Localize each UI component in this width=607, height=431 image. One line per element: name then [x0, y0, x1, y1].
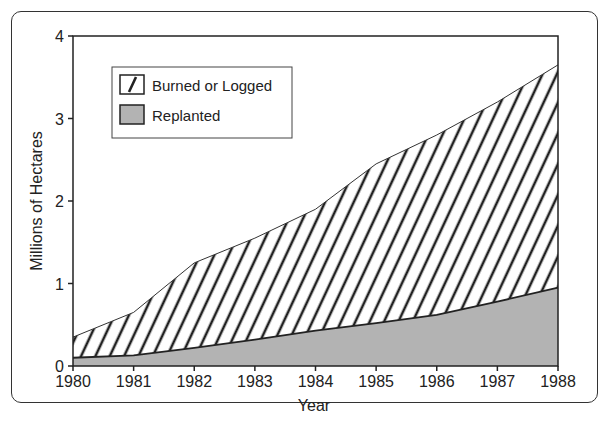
legend: Burned or Logged Replanted [112, 67, 292, 138]
x-tick-label: 1980 [55, 373, 91, 390]
gray-swatch-icon [120, 105, 144, 124]
y-tick-label: 2 [55, 193, 64, 210]
x-tick-label: 1982 [176, 373, 212, 390]
y-axis: 01234 [55, 28, 73, 375]
x-tick-label: 1983 [237, 373, 273, 390]
x-tick-label: 1988 [540, 373, 576, 390]
x-tick-label: 1984 [298, 373, 334, 390]
y-tick-label: 1 [55, 276, 64, 293]
legend-label-replanted: Replanted [152, 107, 220, 124]
legend-label-burned: Burned or Logged [152, 77, 272, 94]
area-chart: 01234 1980198119821983198419851986198719… [0, 0, 607, 431]
x-tick-label: 1981 [116, 373, 152, 390]
y-tick-label: 3 [55, 111, 64, 128]
x-tick-label: 1985 [358, 373, 394, 390]
x-axis-label: Year [298, 397, 331, 414]
x-axis: 198019811982198319841985198619871988 [55, 366, 576, 390]
y-axis-label: Millions of Hectares [28, 131, 45, 271]
x-tick-label: 1987 [480, 373, 516, 390]
y-tick-label: 4 [55, 28, 64, 45]
x-tick-label: 1986 [419, 373, 455, 390]
